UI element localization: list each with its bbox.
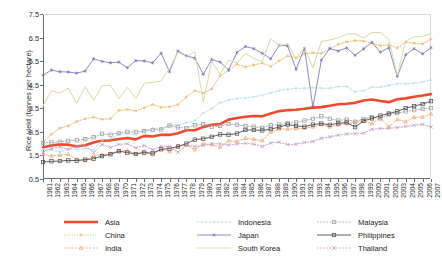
x-tick-label: 1992 (307, 183, 314, 198)
x-tick-label: 2001 (383, 183, 390, 198)
legend-label: Philippines (358, 231, 395, 240)
x-tick-label: 1962 (54, 183, 61, 198)
series-lines (43, 14, 431, 179)
x-tick-label: 1985 (248, 183, 255, 198)
data-point-marker (261, 52, 264, 55)
x-tick-label: 1997 (350, 183, 357, 198)
x-tick-label: 1984 (240, 183, 247, 198)
x-tick-mark (127, 179, 128, 182)
x-tick-mark (304, 179, 305, 182)
x-tick-label: 1988 (274, 183, 281, 198)
data-point-marker (329, 87, 331, 89)
legend-item-india[interactable]: India (62, 242, 121, 254)
data-point-marker (412, 115, 415, 118)
legend-label: South Korea (238, 244, 280, 253)
data-point-marker (202, 92, 204, 94)
legend-item-malaysia[interactable]: Malaysia (315, 216, 388, 228)
data-point-marker (151, 148, 154, 151)
x-tick-label: 1978 (189, 183, 196, 198)
x-tick-label: 1972 (139, 183, 146, 198)
legend-swatch (315, 230, 353, 240)
legend-item-china[interactable]: China (62, 229, 125, 241)
legend-item-philippines[interactable]: Philippines (315, 229, 395, 241)
x-tick-label: 2000 (375, 183, 382, 198)
legend-item-thailand[interactable]: Thailand (315, 242, 387, 254)
data-point-marker (117, 143, 120, 146)
legend-swatch (195, 243, 233, 253)
x-tick-label: 1982 (223, 183, 230, 198)
x-tick-mark (254, 179, 255, 182)
plot-area: 0.51.52.53.54.55.56.57.5 196119621963196… (43, 14, 431, 179)
x-tick-label: 2005 (417, 183, 424, 198)
x-tick-mark (406, 179, 407, 182)
x-tick-label: 1998 (358, 183, 365, 198)
data-point-marker (332, 246, 335, 249)
data-point-marker (252, 137, 255, 140)
series-philippines (41, 100, 432, 164)
x-tick-mark (431, 179, 432, 182)
x-tick-mark (321, 179, 322, 182)
x-tick-label: 1995 (333, 183, 340, 198)
x-tick-mark (397, 179, 398, 182)
x-tick-label: 1979 (198, 183, 205, 198)
x-tick-mark (144, 179, 145, 182)
data-point-marker (126, 142, 129, 145)
x-tick-label: 1970 (122, 183, 129, 198)
x-tick-label: 1996 (341, 183, 348, 198)
data-point-marker (84, 148, 86, 150)
data-point-marker (101, 118, 103, 120)
x-tick-label: 1971 (130, 183, 137, 198)
x-tick-mark (414, 179, 415, 182)
legend-item-asia[interactable]: Asia (62, 216, 120, 228)
x-tick-mark (136, 179, 137, 182)
x-tick-mark (389, 179, 390, 182)
x-tick-mark (94, 179, 95, 182)
x-tick-label: 1999 (367, 183, 374, 198)
data-point-marker (270, 66, 272, 68)
x-tick-label: 1991 (299, 183, 306, 198)
x-tick-mark (245, 179, 246, 182)
x-tick-mark (380, 179, 381, 182)
x-tick-mark (355, 179, 356, 182)
x-tick-mark (60, 179, 61, 182)
x-tick-mark (51, 179, 52, 182)
x-tick-label: 1989 (282, 183, 289, 198)
legend-item-japan[interactable]: Japan (195, 229, 259, 241)
data-point-marker (278, 60, 280, 62)
x-tick-label: 2002 (392, 183, 399, 198)
legend-swatch (315, 217, 353, 227)
data-point-marker (396, 117, 399, 120)
x-tick-mark (212, 179, 213, 182)
x-tick-mark (262, 179, 263, 182)
x-tick-mark (313, 179, 314, 182)
data-point-marker (295, 68, 298, 71)
legend-label: Asia (105, 218, 120, 227)
data-point-marker (269, 141, 272, 144)
x-tick-label: 1986 (257, 183, 264, 198)
x-tick-mark (119, 179, 120, 182)
x-tick-mark (153, 179, 154, 182)
x-tick-mark (186, 179, 187, 182)
x-tick-mark (347, 179, 348, 182)
x-tick-label: 1980 (206, 183, 213, 198)
x-tick-mark (296, 179, 297, 182)
x-tick-label: 1961 (46, 183, 53, 198)
x-tick-mark (85, 179, 86, 182)
x-tick-mark (229, 179, 230, 182)
legend-label: Malaysia (358, 218, 388, 227)
x-tick-label: 2007 (434, 183, 441, 198)
data-point-marker (320, 87, 322, 89)
x-tick-label: 1967 (97, 183, 104, 198)
data-point-marker (110, 118, 112, 120)
legend-item-south-korea[interactable]: South Korea (195, 242, 280, 254)
data-point-marker (422, 81, 424, 83)
x-tick-mark (372, 179, 373, 182)
x-tick-label: 1968 (105, 183, 112, 198)
data-point-marker (387, 46, 390, 49)
legend-item-indonesia[interactable]: Indonesia (195, 216, 271, 228)
x-tick-label: 2003 (400, 183, 407, 198)
legend-swatch (62, 217, 100, 227)
data-point-marker (413, 42, 415, 44)
legend-label: Indonesia (238, 218, 271, 227)
x-tick-label: 1983 (232, 183, 239, 198)
